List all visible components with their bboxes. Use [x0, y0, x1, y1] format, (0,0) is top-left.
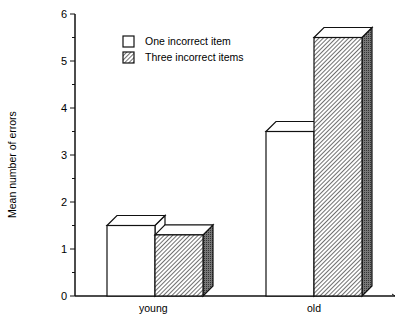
y-ticks: 0123456 [61, 8, 75, 302]
bar-old-three [314, 28, 372, 297]
y-tick-label: 2 [61, 196, 67, 208]
bar-young-three [155, 225, 213, 296]
y-tick-label: 6 [61, 8, 67, 20]
chart-canvas: 0123456 One incorrect item Three incorre… [0, 0, 404, 326]
legend: One incorrect item Three incorrect items [123, 35, 244, 63]
category-label-old: old [307, 302, 321, 314]
y-tick-label: 3 [61, 149, 67, 161]
y-tick-label: 5 [61, 55, 67, 67]
bars [107, 28, 372, 297]
y-tick-label: 1 [61, 243, 67, 255]
y-tick-label: 0 [61, 290, 67, 302]
y-axis-label: Mean number of errors [6, 111, 18, 218]
legend-swatch-one [123, 36, 134, 47]
y-tick-label: 4 [61, 102, 67, 114]
legend-label-three: Three incorrect items [145, 51, 244, 63]
category-label-young: young [139, 302, 168, 314]
legend-swatch-three [123, 52, 134, 63]
legend-label-one: One incorrect item [145, 35, 231, 47]
